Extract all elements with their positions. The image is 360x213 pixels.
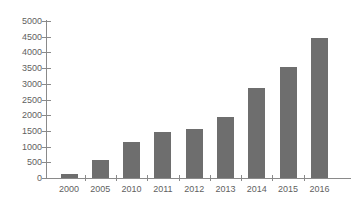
- y-tick-mark: [42, 178, 51, 179]
- y-tick-mark: [42, 100, 51, 101]
- y-tick-label: 0: [37, 174, 42, 183]
- bar: [92, 160, 109, 178]
- y-tick-label: 5000: [22, 17, 42, 26]
- y-tick-label: 4500: [22, 33, 42, 42]
- y-tick-mark: [42, 84, 51, 85]
- bar: [248, 88, 265, 178]
- y-tick-label: 2500: [22, 96, 42, 105]
- x-tick-mark: [241, 175, 242, 181]
- y-tick-label: 1000: [22, 143, 42, 152]
- bar: [154, 132, 171, 178]
- y-tick-label: 3500: [22, 64, 42, 73]
- y-tick-label: 500: [27, 158, 42, 167]
- y-tick-mark: [42, 21, 51, 22]
- y-tick-label: 3000: [22, 80, 42, 89]
- bar: [186, 129, 203, 178]
- x-tick-mark: [116, 175, 117, 181]
- y-tick-label: 4000: [22, 48, 42, 57]
- y-tick-mark: [42, 68, 51, 69]
- x-tick-mark: [304, 175, 305, 181]
- bar: [123, 142, 140, 178]
- bar-chart: 0500100015002000250030003500400045005000…: [0, 0, 360, 213]
- x-tick-mark: [147, 175, 148, 181]
- bar: [280, 67, 297, 178]
- x-tick-mark: [179, 175, 180, 181]
- x-axis-line: [46, 178, 351, 179]
- y-tick-mark: [42, 115, 51, 116]
- x-tick-label: 2016: [299, 184, 339, 194]
- y-tick-label: 1500: [22, 127, 42, 136]
- bar: [311, 38, 328, 178]
- bar: [61, 174, 78, 178]
- y-tick-mark: [42, 162, 51, 163]
- y-tick-mark: [42, 52, 51, 53]
- x-tick-mark: [210, 175, 211, 181]
- x-tick-mark: [272, 175, 273, 181]
- y-tick-mark: [42, 147, 51, 148]
- y-tick-mark: [42, 37, 51, 38]
- x-tick-mark: [85, 175, 86, 181]
- y-tick-mark: [42, 131, 51, 132]
- y-tick-label: 2000: [22, 111, 42, 120]
- bar: [217, 117, 234, 178]
